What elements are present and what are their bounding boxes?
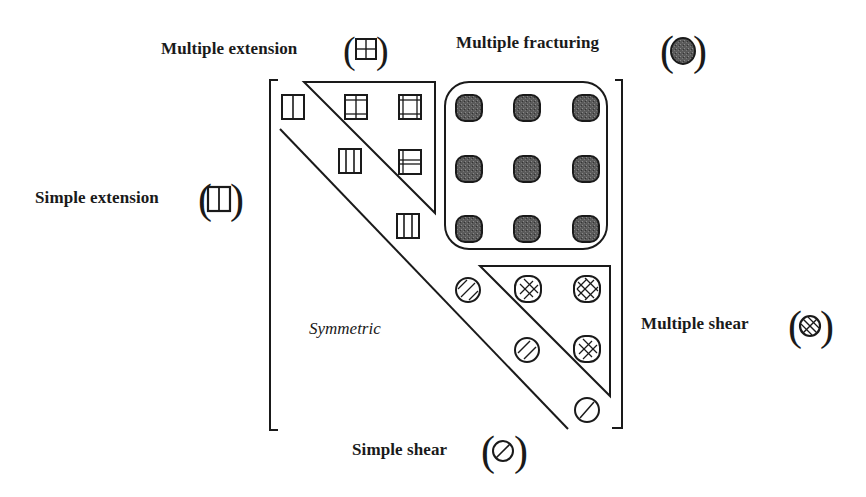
slashed-circle-icon (493, 441, 513, 461)
matrix-bracket-left (270, 80, 278, 430)
fracture-mode-matrix: ( ) ( ) ( ) ( ) ( ) (0, 0, 866, 497)
grid-square-icon (356, 39, 376, 59)
multiple-fracturing-cells (456, 95, 599, 242)
legend-simple-extension: ( ) (198, 176, 244, 223)
grid-square-icon (399, 150, 421, 174)
legend-multiple-extension: ( ) (343, 29, 389, 72)
split-square-icon (397, 214, 419, 238)
legend-simple-shear: ( ) (481, 428, 528, 475)
crosshatched-circle-icon (800, 316, 820, 336)
svg-text:): ) (230, 176, 244, 223)
legend-multiple-fracturing: ( ) (660, 28, 707, 75)
region-multiple-shear (480, 266, 610, 396)
svg-text:(: ( (198, 176, 212, 223)
svg-text:(: ( (343, 29, 356, 72)
legend-multiple-shear: ( ) (788, 303, 834, 350)
region-multiple-extension (304, 82, 435, 213)
multiple-shear-cells (515, 276, 600, 362)
svg-text:): ) (514, 428, 528, 475)
matrix-bracket-right (612, 80, 622, 428)
split-square-icon (339, 149, 361, 173)
grid-square-icon (345, 95, 367, 119)
filled-rounded-square-icon (671, 38, 695, 64)
svg-text:): ) (820, 303, 834, 350)
split-square-icon (282, 95, 304, 119)
svg-text:): ) (376, 29, 389, 72)
grid-square-icon (399, 95, 421, 119)
